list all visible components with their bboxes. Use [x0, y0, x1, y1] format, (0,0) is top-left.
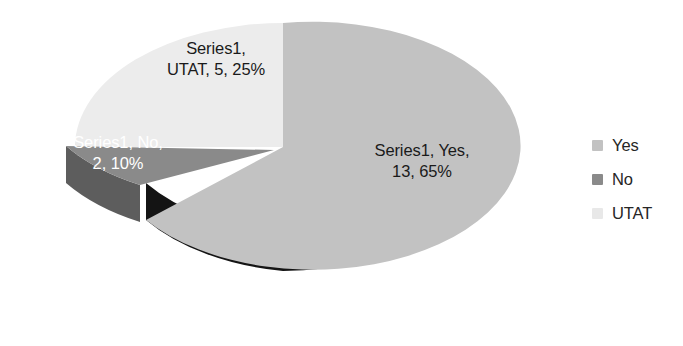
- legend-label-yes: Yes: [612, 136, 639, 155]
- legend-label-utat: UTAT: [612, 204, 652, 223]
- legend-swatch-utat-icon: [592, 208, 603, 219]
- legend-label-no: No: [612, 170, 633, 189]
- chart-legend: Yes No UTAT: [592, 128, 680, 230]
- pie-slice-utat[interactable]: [75, 23, 283, 147]
- pie-chart-area: Series1, Yes, 13, 65% Series1, UTAT, 5, …: [0, 0, 683, 346]
- legend-item-yes[interactable]: Yes: [592, 128, 680, 162]
- legend-item-no[interactable]: No: [592, 162, 680, 196]
- pie-chart-graphic[interactable]: [0, 0, 683, 346]
- legend-item-utat[interactable]: UTAT: [592, 196, 680, 230]
- legend-swatch-no-icon: [592, 174, 603, 185]
- legend-swatch-yes-icon: [592, 140, 603, 151]
